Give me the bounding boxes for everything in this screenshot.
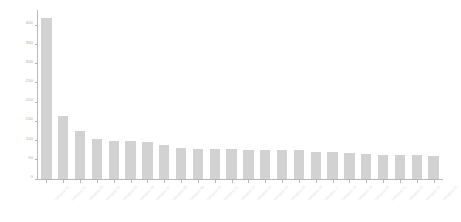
- x-tick-mark: [400, 180, 401, 183]
- x-tick-label: category 21: [391, 185, 408, 202]
- y-tick-label: 0: [31, 175, 33, 179]
- x-tick-mark: [333, 180, 334, 183]
- x-tick-mark: [366, 180, 367, 183]
- x-tick-mark: [46, 180, 47, 183]
- bar: [109, 141, 119, 179]
- x-tick-mark: [147, 180, 148, 183]
- y-tick-label: 250: [26, 79, 33, 83]
- x-tick-label: category 17: [323, 185, 340, 202]
- x-tick-label: category 22: [408, 185, 425, 202]
- x-tick-label: category 11: [222, 185, 238, 201]
- x-tick-mark: [80, 180, 81, 183]
- x-tick-mark: [97, 180, 98, 183]
- bar: [260, 150, 270, 179]
- y-tick-label: 350: [26, 41, 33, 45]
- bar: [226, 149, 236, 179]
- bar: [243, 150, 253, 179]
- plot-area: [38, 10, 442, 179]
- x-tick-mark: [63, 180, 64, 183]
- bar: [277, 150, 287, 179]
- bar: [378, 155, 388, 179]
- x-tick-label: category 05: [121, 185, 138, 202]
- x-tick-mark: [181, 180, 182, 183]
- bar: [58, 116, 68, 179]
- bar: [142, 142, 152, 179]
- bar: [176, 148, 186, 179]
- x-tick-label: category 16: [307, 185, 324, 202]
- bar: [344, 153, 354, 179]
- x-tick-mark: [131, 180, 132, 183]
- x-tick-mark: [265, 180, 266, 183]
- x-tick-mark: [215, 180, 216, 183]
- x-tick-mark: [248, 180, 249, 183]
- x-tick-label: category 02: [71, 185, 88, 202]
- bar: [75, 131, 85, 179]
- bar: [395, 155, 405, 179]
- bar: [311, 152, 321, 179]
- x-tick-label: category 07: [155, 185, 172, 202]
- y-tick-label: 100: [26, 137, 33, 141]
- bar: [193, 149, 203, 179]
- bar: [361, 154, 371, 179]
- y-tick-label: 200: [26, 98, 33, 102]
- bar: [327, 152, 337, 179]
- x-tick-label: category 23: [424, 185, 441, 202]
- bar: [428, 156, 438, 179]
- x-tick-label: category 18: [340, 185, 357, 202]
- bar: [210, 149, 220, 179]
- bar: [294, 150, 304, 179]
- bar: [412, 155, 422, 179]
- x-tick-mark: [299, 180, 300, 183]
- x-tick-mark: [164, 180, 165, 183]
- x-tick-mark: [417, 180, 418, 183]
- y-tick-label: 300: [26, 60, 33, 64]
- x-tick-label: category 20: [374, 185, 391, 202]
- x-tick-label: category 14: [273, 185, 290, 202]
- x-tick-label: category 19: [357, 185, 374, 202]
- x-tick-label: category 12: [239, 185, 256, 202]
- x-tick-label: category 15: [290, 185, 307, 202]
- x-tick-mark: [198, 180, 199, 183]
- x-tick-label: category 09: [189, 185, 206, 202]
- x-tick-mark: [316, 180, 317, 183]
- bar: [92, 139, 102, 179]
- x-tick-label: category 08: [172, 185, 189, 202]
- x-tick-label: category 06: [138, 185, 155, 202]
- x-tick-label: category 10: [206, 185, 223, 202]
- x-tick-mark: [232, 180, 233, 183]
- bar: [159, 145, 169, 179]
- x-tick-label: category 03: [88, 185, 105, 202]
- y-tick-label: 50: [28, 156, 33, 160]
- x-tick-mark: [434, 180, 435, 183]
- x-tick-label: category 01: [54, 185, 71, 202]
- bar: [41, 18, 51, 179]
- x-tick-label: category 13: [256, 185, 273, 202]
- y-tick-label: 400: [26, 21, 33, 25]
- x-tick-mark: [349, 180, 350, 183]
- bar-chart-figure: 050100150200250300350400 category 01cate…: [0, 0, 461, 222]
- x-tick-mark: [114, 180, 115, 183]
- x-tick-mark: [383, 180, 384, 183]
- x-tick-label: category 24: [441, 185, 458, 202]
- x-tick-label: category 04: [105, 185, 122, 202]
- x-tick-mark: [282, 180, 283, 183]
- y-tick-label: 150: [26, 117, 33, 121]
- bar: [125, 141, 135, 179]
